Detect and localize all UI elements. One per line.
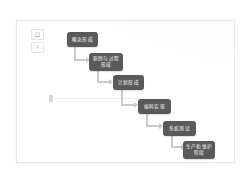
corner-label-line-1: 口 (31, 29, 44, 40)
flow-node-4[interactable]: 编码实现 (138, 99, 171, 114)
guide-handle[interactable] (49, 95, 53, 102)
flow-node-5-label: 系统测试 (165, 126, 194, 132)
connector-3-horizontal (121, 104, 135, 106)
corner-label[interactable]: 口 I (31, 29, 44, 53)
flow-node-2[interactable]: 原则与过程形成 (89, 53, 123, 71)
flow-node-4-label: 编码实现 (140, 104, 169, 110)
flow-node-1[interactable]: 概念形成 (67, 32, 98, 47)
flow-node-3-label: 计划形成 (115, 80, 142, 86)
flow-node-2-label: 原则与过程形成 (91, 56, 121, 68)
connector-4-horizontal (146, 125, 160, 127)
diagram-canvas[interactable]: 口 I 概念形成 原则与过程形成 计划形成 编 (16, 20, 235, 163)
flow-node-3[interactable]: 计划形成 (113, 75, 144, 90)
app-root: 口 I 概念形成 原则与过程形成 计划形成 编 (0, 0, 252, 178)
guide-line (54, 98, 140, 99)
flow-node-6[interactable]: 生产和维护阶段 (183, 141, 215, 159)
canvas-highlight (104, 21, 234, 63)
corner-label-line-2: I (31, 42, 44, 53)
flow-node-5[interactable]: 系统测试 (163, 121, 196, 136)
flow-node-6-label: 生产和维护阶段 (185, 144, 213, 156)
flow-node-1-label: 概念形成 (69, 37, 96, 43)
